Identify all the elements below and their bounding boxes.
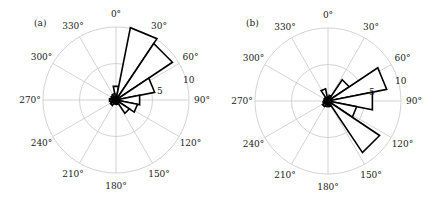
radial-tick-label: 10: [395, 76, 407, 86]
angle-tick-label: 90°: [406, 96, 422, 106]
radial-tick-label: 5: [369, 87, 375, 97]
radial-spoke: [265, 101, 328, 138]
rose-panel-b: 0°30°60°90°120°150°180°210°240°270°300°3…: [231, 10, 422, 192]
angle-tick-label: 210°: [274, 170, 296, 180]
angle-tick-label: 330°: [274, 22, 296, 32]
rose-diagram-figure: 0°30°60°90°120°150°180°210°240°270°300°3…: [0, 0, 435, 200]
radial-spoke: [53, 100, 116, 137]
angle-tick-label: 0°: [323, 10, 333, 20]
radial-spoke: [265, 65, 328, 102]
panel-label: (b): [246, 18, 259, 28]
angle-tick-label: 270°: [19, 95, 41, 105]
radial-spoke: [292, 101, 329, 164]
angle-tick-label: 180°: [105, 181, 127, 191]
radial-spoke: [80, 37, 117, 100]
angle-tick-label: 240°: [243, 139, 265, 149]
angle-tick-label: 300°: [31, 52, 53, 62]
angle-tick-label: 0°: [111, 9, 121, 19]
radial-spoke: [80, 100, 117, 163]
angle-tick-label: 240°: [31, 138, 53, 148]
angle-tick-label: 150°: [148, 169, 170, 179]
radial-tick-label: 5: [157, 86, 163, 96]
panel-label: (a): [34, 18, 46, 28]
angle-tick-label: 300°: [243, 53, 265, 63]
angle-tick-label: 30°: [151, 21, 167, 31]
angle-tick-label: 120°: [392, 139, 414, 149]
angle-tick-label: 60°: [395, 53, 411, 63]
angle-tick-label: 180°: [317, 182, 339, 192]
angle-tick-label: 90°: [194, 95, 210, 105]
angle-tick-label: 30°: [363, 22, 379, 32]
radial-spoke: [53, 64, 116, 101]
angle-tick-label: 60°: [183, 52, 199, 62]
angle-tick-label: 330°: [62, 21, 84, 31]
angle-tick-label: 120°: [180, 138, 202, 148]
figure: 0°30°60°90°120°150°180°210°240°270°300°3…: [0, 0, 435, 200]
angle-tick-label: 150°: [360, 170, 382, 180]
rose-panel-a: 0°30°60°90°120°150°180°210°240°270°300°3…: [19, 9, 210, 191]
angle-tick-label: 210°: [62, 169, 84, 179]
angle-tick-label: 270°: [231, 96, 253, 106]
radial-tick-label: 10: [183, 75, 195, 85]
